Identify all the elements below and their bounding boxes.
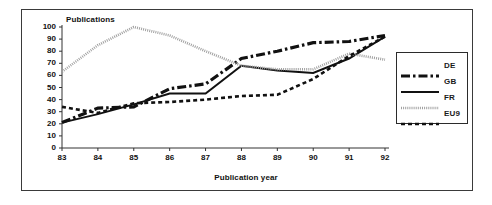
legend-label-eu9: EU9 [444, 108, 460, 120]
legend-swatch-fr [401, 97, 439, 101]
chart-figure: Publications Publication year 1009080706… [0, 0, 492, 205]
legend-swatch-eu9 [401, 113, 439, 117]
series-line-eu9 [62, 37, 385, 113]
legend-label-de: DE [444, 60, 456, 72]
chart-legend: DEGBFREU9 [396, 52, 468, 124]
legend-item-eu9[interactable]: EU9 [401, 106, 467, 124]
legend-swatch-de [401, 65, 439, 69]
legend-swatch-gb [401, 81, 439, 85]
legend-label-fr: FR [444, 92, 455, 104]
legend-label-gb: GB [444, 76, 456, 88]
